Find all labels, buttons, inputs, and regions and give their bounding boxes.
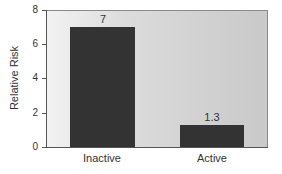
- y-tick-label: 2: [32, 108, 38, 118]
- y-axis: [46, 10, 47, 148]
- y-tick-2: [42, 113, 46, 114]
- x-axis: [46, 147, 268, 148]
- y-axis-label: Relative Risk: [8, 46, 20, 110]
- category-label-inactive: Inactive: [62, 152, 142, 164]
- y-tick-label: 0: [32, 142, 38, 152]
- bar-inactive: [70, 27, 135, 147]
- y-tick-6: [42, 44, 46, 45]
- y-tick-0: [42, 147, 46, 148]
- y-tick-label: 6: [32, 39, 38, 49]
- y-tick-label: 4: [32, 73, 38, 83]
- bar-value-label-active: 1.3: [180, 111, 244, 123]
- y-tick-8: [42, 10, 46, 11]
- y-tick-4: [42, 78, 46, 79]
- bar-active: [180, 125, 244, 147]
- category-label-active: Active: [172, 152, 252, 164]
- bar-value-label-inactive: 7: [71, 13, 135, 25]
- y-tick-label: 8: [32, 5, 38, 15]
